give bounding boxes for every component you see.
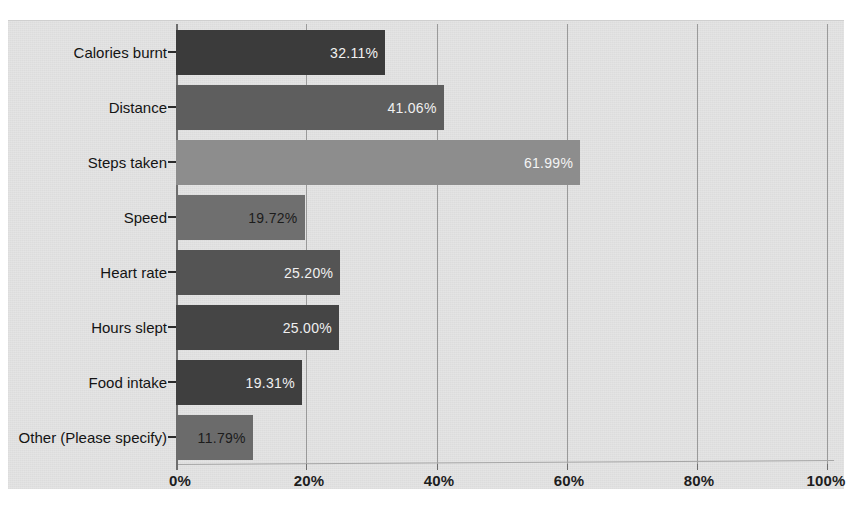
bar-distance: 41.06% [176, 85, 444, 130]
category-tick [168, 326, 176, 328]
bar-value-label: 25.20% [284, 265, 333, 281]
category-tick [168, 161, 176, 163]
bar-value-label: 19.31% [246, 375, 295, 391]
bar-value-label: 41.06% [387, 100, 436, 116]
category-label: Steps taken [88, 140, 167, 185]
bar-rows: Calories burnt 32.11% Distance 41.06% St… [176, 24, 828, 464]
category-tick [168, 106, 176, 108]
x-tick-label-40: 40% [424, 472, 455, 489]
x-tick-80 [697, 464, 698, 470]
category-tick [168, 436, 176, 438]
category-label: Calories burnt [74, 30, 167, 75]
bar-hours-slept: 25.00% [176, 305, 339, 350]
category-label: Heart rate [100, 250, 167, 295]
x-tick-100 [827, 464, 828, 470]
category-label: Hours slept [91, 305, 167, 350]
category-label: Speed [124, 195, 167, 240]
category-tick [168, 381, 176, 383]
x-tick-label-100: 100% [806, 472, 845, 489]
x-tick-label-80: 80% [684, 472, 715, 489]
bar-value-label: 61.99% [524, 155, 573, 171]
category-label: Other (Please specify) [19, 415, 167, 460]
bar-calories-burnt: 32.11% [176, 30, 385, 75]
x-tick-20 [306, 464, 307, 470]
bar-food-intake: 19.31% [176, 360, 302, 405]
bar-value-label: 11.79% [198, 430, 246, 446]
bar-steps-taken: 61.99% [176, 140, 580, 185]
x-tick-label-60: 60% [554, 472, 585, 489]
category-tick [168, 271, 176, 273]
plot-area: 0% 20% 40% 60% 80% 100% Calories burnt 3… [176, 24, 828, 464]
x-tick-label-20: 20% [294, 472, 325, 489]
x-tick-0 [176, 464, 178, 470]
bar-heart-rate: 25.20% [176, 250, 340, 295]
bar-speed: 19.72% [176, 195, 305, 240]
category-tick [168, 51, 176, 53]
category-tick [168, 216, 176, 218]
bar-value-label: 19.72% [248, 210, 297, 226]
category-label: Distance [109, 85, 167, 130]
x-tick-60 [567, 464, 568, 470]
bar-value-label: 25.00% [283, 320, 332, 336]
category-label: Food intake [89, 360, 167, 405]
bar-value-label: 32.11% [330, 45, 378, 61]
x-tick-label-0: 0% [169, 472, 191, 489]
bar-other-please-specify: 11.79% [176, 415, 253, 460]
bar-chart: 0% 20% 40% 60% 80% 100% Calories burnt 3… [0, 0, 852, 527]
x-tick-40 [437, 464, 438, 470]
